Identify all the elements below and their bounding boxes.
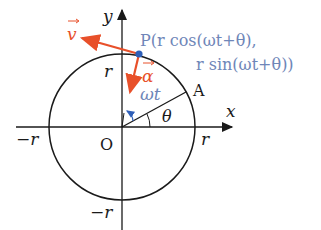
point-p-dot — [135, 50, 142, 57]
acceleration-label: α — [142, 61, 154, 86]
theta-arc — [147, 114, 150, 127]
velocity-label: v — [67, 19, 79, 44]
omega-t-label: ωt — [140, 84, 161, 104]
circular-motion-diagram: y x O r r −r −r A θ ωt v α P(r cos(ωt+θ)… — [0, 0, 321, 230]
point-p-label-line2: r sin(ωt+θ)) — [196, 55, 294, 74]
x-axis-label: x — [226, 101, 236, 121]
svg-text:v: v — [67, 24, 77, 44]
origin-label: O — [100, 135, 113, 154]
r-right-label: r — [201, 129, 210, 149]
r-top-label: r — [104, 61, 113, 81]
neg-r-left-label: −r — [16, 129, 39, 149]
theta-label: θ — [162, 107, 172, 126]
neg-r-bottom-label: −r — [90, 202, 113, 222]
point-p-label-line1: P(r cos(ωt+θ), — [140, 31, 257, 50]
velocity-vector — [82, 38, 139, 54]
point-a-label: A — [192, 81, 205, 100]
y-axis-label: y — [102, 6, 113, 26]
omega-t-arc — [127, 111, 133, 121]
svg-text:α: α — [142, 66, 154, 86]
acceleration-vector — [130, 54, 139, 92]
